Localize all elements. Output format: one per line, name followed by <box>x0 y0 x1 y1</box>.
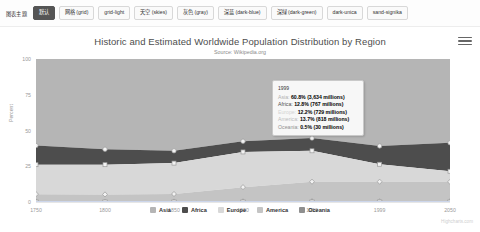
legend-label: Oceania <box>308 207 330 213</box>
data-point-marker[interactable] <box>378 162 382 166</box>
data-point-marker[interactable] <box>448 141 450 145</box>
highcharts-credit: Highcharts.com <box>441 219 473 224</box>
legend-label: Asia <box>159 207 171 213</box>
tooltip-row: America: 13.7% (818 millions) <box>278 116 358 124</box>
y-tick-label: 25 <box>25 163 31 169</box>
legend-swatch-icon <box>150 207 156 213</box>
data-point-marker[interactable] <box>377 179 382 184</box>
data-point-marker[interactable] <box>103 163 107 167</box>
theme-button-7[interactable]: dark-unica <box>327 6 363 20</box>
theme-button-5[interactable]: 深蓝 (dark-blue) <box>218 6 267 20</box>
tooltip-rows: Asia: 60.8% (3,634 millions)Africa: 12.8… <box>278 94 358 132</box>
tooltip-row: Europe: 12.2% (729 millions) <box>278 109 358 117</box>
data-point-marker[interactable] <box>310 179 315 184</box>
y-axis-title: Percent <box>8 104 14 122</box>
chart-tooltip: 1999 Asia: 60.8% (3,634 millions)Africa:… <box>272 80 364 136</box>
data-point-marker[interactable] <box>310 136 314 140</box>
tooltip-series-value: 13.7% (818 millions) <box>300 116 349 122</box>
legend-item-america[interactable]: America <box>257 207 288 213</box>
theme-toolbar-label: 图表主题 <box>6 10 27 17</box>
hamburger-menu-icon[interactable] <box>458 35 472 47</box>
theme-button-2[interactable]: grid-light <box>98 6 130 20</box>
tooltip-row: Oceania: 0.5% (30 millions) <box>278 124 358 132</box>
legend-swatch-icon <box>257 207 263 213</box>
legend-item-asia[interactable]: Asia <box>150 207 171 213</box>
theme-button-3[interactable]: 天空 (skies) <box>134 6 173 20</box>
tooltip-series-value: 0.5% (30 millions) <box>300 124 344 130</box>
tooltip-series-name: Europe: <box>278 109 298 115</box>
tooltip-series-value: 12.2% (729 millions) <box>298 109 347 115</box>
data-point-marker[interactable] <box>377 144 381 148</box>
data-point-marker[interactable] <box>448 179 450 184</box>
data-point-marker[interactable] <box>172 191 177 196</box>
data-point-marker[interactable] <box>310 149 314 153</box>
legend-label: Europe <box>227 207 246 213</box>
screenshot-root: 图表主题 默认网格 (grid)grid-light天空 (skies)灰色 (… <box>0 0 480 232</box>
legend-swatch-icon <box>299 207 305 213</box>
data-point-marker[interactable] <box>241 150 245 154</box>
legend-item-europe[interactable]: Europe <box>218 207 246 213</box>
x-axis-line <box>36 201 450 202</box>
point-markers-group <box>36 59 450 202</box>
legend-swatch-icon <box>218 207 224 213</box>
theme-button-4[interactable]: 灰色 (gray) <box>177 6 214 20</box>
tooltip-series-name: Asia: <box>278 94 291 100</box>
y-tick-label: 50 <box>25 128 31 134</box>
theme-button-0[interactable]: 默认 <box>33 6 55 20</box>
tooltip-header: 1999 <box>278 85 358 91</box>
legend-swatch-icon <box>182 207 188 213</box>
data-point-marker[interactable] <box>103 147 107 151</box>
data-point-marker[interactable] <box>241 185 246 190</box>
tooltip-row: Africa: 12.8% (767 millions) <box>278 101 358 109</box>
theme-button-6[interactable]: 深绿 (dark-green) <box>271 6 323 20</box>
plot-area: 0255075100 1750180018501900195019992050 <box>36 59 450 202</box>
theme-button-group: 默认网格 (grid)grid-light天空 (skies)灰色 (gray)… <box>33 6 408 20</box>
tooltip-series-value: 12.8% (767 millions) <box>294 101 343 107</box>
y-tick-label: 75 <box>25 92 31 98</box>
data-point-marker[interactable] <box>172 161 176 165</box>
legend-label: Africa <box>191 207 207 213</box>
data-point-marker[interactable] <box>103 192 108 197</box>
data-point-marker[interactable] <box>36 163 38 167</box>
data-point-marker[interactable] <box>172 149 176 153</box>
page-title: Historic and Estimated Worldwide Populat… <box>0 36 480 47</box>
tooltip-series-name: America: <box>278 116 300 122</box>
tooltip-row: Asia: 60.8% (3,634 millions) <box>278 94 358 102</box>
theme-toolbar: 图表主题 默认网格 (grid)grid-light天空 (skies)灰色 (… <box>0 0 480 27</box>
legend-label: America <box>266 207 288 213</box>
chart-subtitle: Source: Wikipedia.org <box>0 49 480 55</box>
data-point-marker[interactable] <box>36 192 38 197</box>
highcharts-container: Historic and Estimated Worldwide Populat… <box>0 27 480 232</box>
y-tick-label: 100 <box>22 56 31 62</box>
theme-button-8[interactable]: sand-signika <box>367 6 408 20</box>
data-point-marker[interactable] <box>448 169 450 173</box>
theme-button-1[interactable]: 网格 (grid) <box>59 6 95 20</box>
y-tick-label: 0 <box>28 199 31 205</box>
tooltip-series-value: 60.8% (3,634 millions) <box>291 94 345 100</box>
legend-item-oceania[interactable]: Oceania <box>299 207 330 213</box>
gridline <box>36 202 450 203</box>
legend-item-africa[interactable]: Africa <box>182 207 207 213</box>
tooltip-series-name: Oceania: <box>278 124 300 130</box>
data-point-marker[interactable] <box>241 139 245 143</box>
tooltip-series-name: Africa: <box>278 101 294 107</box>
chart-legend: AsiaAfricaEuropeAmericaOceania <box>0 207 480 213</box>
data-point-marker[interactable] <box>36 143 38 147</box>
